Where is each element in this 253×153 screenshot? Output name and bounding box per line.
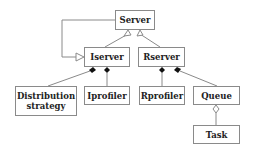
- generalization-arrow-icon: [137, 30, 143, 36]
- node-queue: Queue: [193, 86, 240, 105]
- node-task: Task: [193, 125, 240, 144]
- node-iserver: Iserver: [84, 47, 130, 67]
- composition-diamond-icon: [159, 67, 165, 73]
- edge-rserver-queue: [180, 71, 217, 86]
- node-iprofiler: Iprofiler: [84, 86, 130, 105]
- node-rprofiler: Rprofiler: [139, 86, 185, 105]
- composition-diamond-icon: [89, 67, 96, 73]
- composition-diamond-icon: [174, 67, 181, 73]
- generalization-arrow-icon: [76, 53, 84, 61]
- generalization-arrow-icon: [124, 30, 131, 36]
- node-rserver: Rserver: [138, 47, 185, 67]
- edge-rserver-server: [140, 34, 160, 47]
- composition-diamond-icon: [104, 67, 110, 73]
- node-server: Server: [115, 10, 155, 30]
- edge-iserver-distribution: [48, 71, 90, 86]
- aggregation-diamond-icon: [213, 105, 219, 113]
- node-distribution-strategy: Distribution strategy: [15, 86, 77, 116]
